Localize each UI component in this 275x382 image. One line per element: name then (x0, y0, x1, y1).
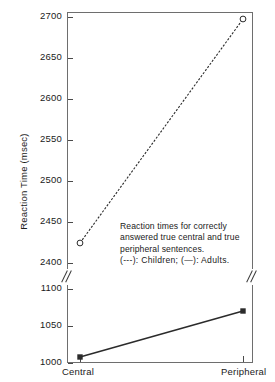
y-tick-label: 1050 (20, 320, 62, 330)
y-tick-label: 2700 (20, 11, 62, 21)
y-axis-tick-labels: 2700 2650 2600 2550 2500 2450 2400 1100 … (18, 0, 62, 382)
data-point-children-peripheral (240, 16, 246, 22)
y-tick-label: 2600 (20, 93, 62, 103)
annotation-line-1: Reaction times for correctly (120, 221, 254, 232)
annotation-line-2: answered true central and true (120, 232, 254, 243)
series-line-adults (80, 311, 243, 357)
x-tick-label-central: Central (62, 366, 94, 377)
data-point-adults-central (77, 354, 82, 359)
annotation-line-3: peripheral sentences. (120, 244, 254, 255)
plot-area: Reaction times for correctly answered tr… (67, 12, 253, 363)
reaction-time-chart: Reaction Time (msec) 2700 2650 2600 2550… (0, 0, 275, 382)
y-tick-label: 2550 (20, 134, 62, 144)
data-point-children-central (77, 240, 83, 246)
chart-annotation: Reaction times for correctly answered tr… (120, 221, 254, 267)
y-tick-label: 2450 (20, 216, 62, 226)
y-tick-label: 1100 (20, 283, 62, 293)
y-tick-label: 2400 (20, 257, 62, 267)
legend-entries: (---): Children; (—): Adults. (120, 255, 254, 266)
series-line-children (80, 19, 243, 243)
y-tick-label: 2500 (20, 175, 62, 185)
x-tick-label-peripheral: Peripheral (221, 366, 266, 377)
data-series-layer (68, 13, 254, 364)
y-tick-label: 2650 (20, 52, 62, 62)
y-tick-label: 1000 (20, 357, 62, 367)
data-point-adults-peripheral (240, 308, 245, 313)
